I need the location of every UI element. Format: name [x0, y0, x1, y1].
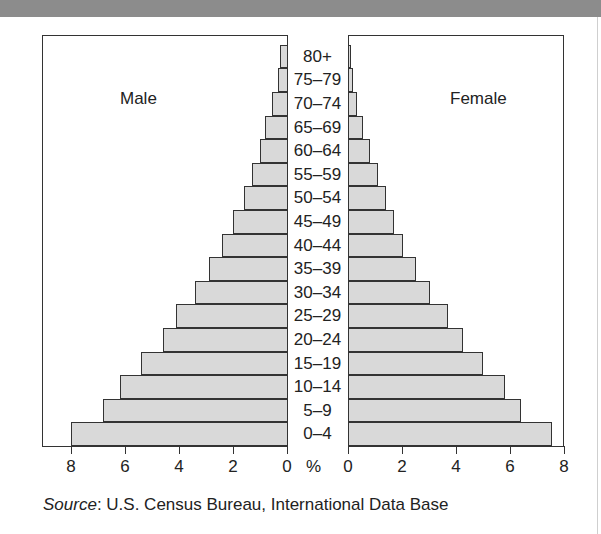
male-bar: [222, 234, 288, 258]
female-axis-tick-label: 0: [338, 457, 358, 477]
male-bar: [141, 352, 288, 376]
female-axis-tick: [564, 446, 565, 454]
male-axis-tick-label: 4: [169, 457, 189, 477]
male-bar: [120, 375, 288, 399]
female-bar: [348, 352, 483, 376]
header-band: [0, 0, 601, 17]
female-axis-tick: [510, 446, 511, 454]
age-group-label: 0–4: [287, 422, 348, 446]
male-axis-tick-label: 8: [61, 457, 81, 477]
age-group-label: 25–29: [287, 304, 348, 328]
female-bar: [348, 234, 403, 258]
source-caption: Source: U.S. Census Bureau, Internationa…: [43, 495, 448, 515]
source-text: : U.S. Census Bureau, International Data…: [97, 495, 449, 514]
male-axis-tick: [287, 446, 288, 454]
female-axis-tick-label: 6: [500, 457, 520, 477]
female-bar: [348, 257, 416, 281]
female-bar: [348, 68, 353, 92]
age-group-label: 5–9: [287, 399, 348, 423]
female-bar: [348, 399, 521, 423]
male-bar: [103, 399, 288, 423]
male-axis-tick-label: 0: [277, 457, 297, 477]
age-group-label: 10–14: [287, 375, 348, 399]
female-bar: [348, 116, 363, 140]
male-label: Male: [120, 89, 157, 109]
age-group-label: 65–69: [287, 116, 348, 140]
female-bar: [348, 210, 394, 234]
age-group-label: 60–64: [287, 139, 348, 163]
age-group-label: 70–74: [287, 92, 348, 116]
age-group-label: 45–49: [287, 210, 348, 234]
female-axis-tick: [348, 446, 349, 454]
female-axis-tick-label: 8: [554, 457, 574, 477]
age-group-label: 40–44: [287, 234, 348, 258]
male-bar: [233, 210, 288, 234]
age-group-label: 55–59: [287, 163, 348, 187]
female-axis-tick-label: 4: [446, 457, 466, 477]
male-axis-tick: [233, 446, 234, 454]
male-bar: [272, 92, 288, 116]
female-axis-tick-label: 2: [392, 457, 412, 477]
male-axis-tick-label: 6: [115, 457, 135, 477]
male-bar: [265, 116, 288, 140]
age-group-label: 50–54: [287, 186, 348, 210]
male-bar: [252, 163, 288, 187]
male-bar: [244, 186, 288, 210]
male-bar: [209, 257, 288, 281]
age-group-label: 35–39: [287, 257, 348, 281]
female-bar: [348, 375, 505, 399]
percent-axis-label: %: [306, 457, 321, 477]
age-group-label: 80+: [287, 45, 348, 69]
male-bar: [260, 139, 288, 163]
female-bar: [348, 422, 552, 446]
female-bar: [348, 139, 370, 163]
female-bar: [348, 163, 378, 187]
female-bar: [348, 92, 357, 116]
female-label: Female: [450, 89, 507, 109]
female-bar: [348, 45, 351, 69]
female-bar: [348, 281, 430, 305]
male-bar: [176, 304, 288, 328]
age-group-label: 20–24: [287, 328, 348, 352]
male-axis-tick: [125, 446, 126, 454]
page-edge-rule: [597, 17, 598, 534]
male-axis-tick-label: 2: [223, 457, 243, 477]
male-axis-tick: [179, 446, 180, 454]
age-group-label: 15–19: [287, 352, 348, 376]
female-axis-tick: [456, 446, 457, 454]
male-axis-tick: [71, 446, 72, 454]
female-bar: [348, 328, 463, 352]
source-prefix: Source: [43, 495, 97, 514]
female-bar: [348, 304, 448, 328]
male-bar: [163, 328, 288, 352]
age-group-label: 75–79: [287, 68, 348, 92]
male-bar: [71, 422, 288, 446]
age-group-label: 30–34: [287, 281, 348, 305]
male-bar: [195, 281, 288, 305]
female-axis-tick: [402, 446, 403, 454]
female-bar: [348, 186, 386, 210]
